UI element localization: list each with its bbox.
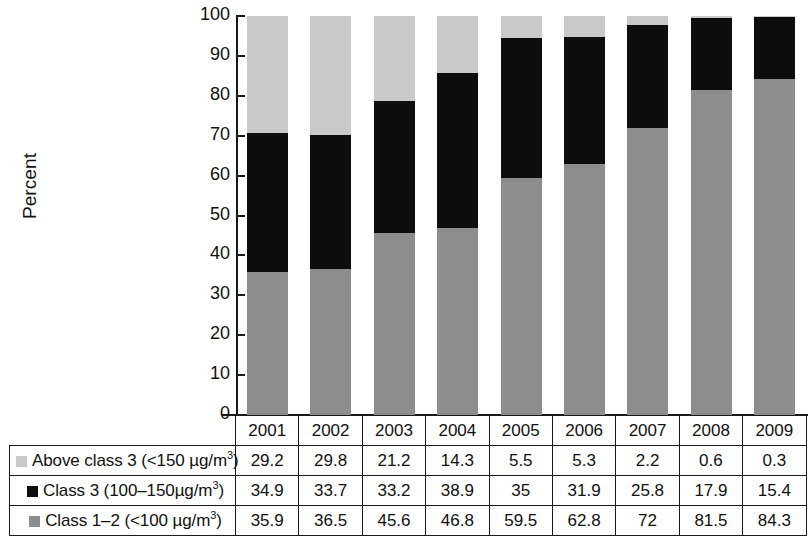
chart-plot-region: Percent 0102030405060708090100 <box>0 0 810 417</box>
table-row: Above class 3 (<150 µg/m3)29.229.821.214… <box>10 446 807 476</box>
superscript: 3 <box>210 509 216 521</box>
table-year-header: 2001 <box>236 416 299 446</box>
data-table: 200120022003200420052006200720082009Abov… <box>9 416 807 536</box>
table-year-header: 2007 <box>616 416 679 446</box>
table-year-header: 2003 <box>362 416 425 446</box>
bar-segment <box>437 73 478 228</box>
bar-segment <box>374 233 415 415</box>
table-cell-value: 59.5 <box>489 506 552 536</box>
bar-segment <box>437 228 478 415</box>
table-cell-value: 5.3 <box>552 446 615 476</box>
table-cell-value: 33.7 <box>299 476 362 506</box>
table-year-header: 2002 <box>299 416 362 446</box>
table-year-header: 2004 <box>426 416 489 446</box>
legend-swatch-icon <box>29 516 40 527</box>
bar-segment <box>501 178 542 415</box>
bar-segment <box>374 101 415 233</box>
y-axis-tick-label: 60 <box>184 164 230 185</box>
bar-stack <box>501 16 542 415</box>
y-axis-tick-label: 40 <box>184 243 230 264</box>
bar-stack <box>627 16 668 415</box>
legend-series-label: Class 1–2 (<100 µg/m3) <box>10 506 236 536</box>
table-cell-value: 29.2 <box>236 446 299 476</box>
table-cell-value: 17.9 <box>679 476 742 506</box>
bar-stack <box>691 16 732 415</box>
superscript: 3 <box>212 479 218 491</box>
legend-series-label: Class 3 (100–150µg/m3) <box>10 476 236 506</box>
table-year-header: 2006 <box>552 416 615 446</box>
bar-segment <box>691 90 732 415</box>
legend-label-text: Class 3 (100–150µg/m3) <box>43 481 224 500</box>
bar-stack <box>437 16 478 415</box>
legend-label-text: Class 1–2 (<100 µg/m3) <box>45 511 222 530</box>
y-axis-tick-label: 100 <box>184 4 230 25</box>
table-cell-value: 5.5 <box>489 446 552 476</box>
table-cell-value: 45.6 <box>362 506 425 536</box>
legend-label-text: Above class 3 (<150 µg/m3) <box>32 451 239 470</box>
bar-segment <box>627 25 668 128</box>
y-axis-tick-label: 10 <box>184 363 230 384</box>
table-cell-value: 36.5 <box>299 506 362 536</box>
legend-series-label: Above class 3 (<150 µg/m3) <box>10 446 236 476</box>
bar-segment <box>247 133 288 272</box>
y-axis-tick-label: 80 <box>184 84 230 105</box>
y-axis-tick-label: 50 <box>184 204 230 225</box>
bar-segment <box>564 164 605 415</box>
table-cell-value: 81.5 <box>679 506 742 536</box>
table-year-header: 2008 <box>679 416 742 446</box>
bar-segment <box>564 16 605 37</box>
bar-segment <box>691 16 732 18</box>
table-cell-value: 72 <box>616 506 679 536</box>
y-axis-tick-label: 90 <box>184 44 230 65</box>
bar-segment <box>564 37 605 164</box>
table-row: Class 3 (100–150µg/m3)34.933.733.238.935… <box>10 476 807 506</box>
bars-container <box>236 16 808 415</box>
bar-stack <box>310 16 351 415</box>
y-axis-title: Percent <box>19 126 41 246</box>
bar-stack <box>564 16 605 415</box>
bar-stack <box>754 16 795 415</box>
bar-stack <box>374 16 415 415</box>
legend-swatch-icon <box>16 456 27 467</box>
table-year-header: 2005 <box>489 416 552 446</box>
bar-segment <box>754 79 795 415</box>
table-corner-cell <box>10 416 236 446</box>
legend-swatch-icon <box>27 486 38 497</box>
bar-segment <box>247 272 288 415</box>
y-axis-tick-label: 70 <box>184 124 230 145</box>
data-table-region: 200120022003200420052006200720082009Abov… <box>0 416 810 526</box>
table-cell-value: 31.9 <box>552 476 615 506</box>
table-cell-value: 33.2 <box>362 476 425 506</box>
bar-segment <box>310 269 351 415</box>
table-cell-value: 38.9 <box>426 476 489 506</box>
bar-segment <box>754 16 795 17</box>
bar-segment <box>754 17 795 78</box>
bar-segment <box>374 16 415 101</box>
bar-segment <box>310 135 351 269</box>
bar-segment <box>627 128 668 415</box>
table-cell-value: 34.9 <box>236 476 299 506</box>
bar-segment <box>310 16 351 135</box>
y-axis-tick-label: 30 <box>184 283 230 304</box>
y-axis-tick-label: 20 <box>184 323 230 344</box>
table-cell-value: 46.8 <box>426 506 489 536</box>
bar-segment <box>437 16 478 73</box>
bar-segment <box>691 18 732 89</box>
bar-segment <box>501 38 542 178</box>
table-cell-value: 35.9 <box>236 506 299 536</box>
table-cell-value: 84.3 <box>743 506 806 536</box>
superscript: 3 <box>227 449 233 461</box>
table-cell-value: 2.2 <box>616 446 679 476</box>
bar-stack <box>247 16 288 415</box>
bar-segment <box>247 16 288 133</box>
table-cell-value: 25.8 <box>616 476 679 506</box>
table-cell-value: 29.8 <box>299 446 362 476</box>
table-year-header: 2009 <box>743 416 806 446</box>
table-cell-value: 14.3 <box>426 446 489 476</box>
table-cell-value: 0.6 <box>679 446 742 476</box>
table-cell-value: 62.8 <box>552 506 615 536</box>
table-cell-value: 0.3 <box>743 446 806 476</box>
bar-segment <box>627 16 668 25</box>
table-row: Class 1–2 (<100 µg/m3)35.936.545.646.859… <box>10 506 807 536</box>
bar-segment <box>501 16 542 38</box>
